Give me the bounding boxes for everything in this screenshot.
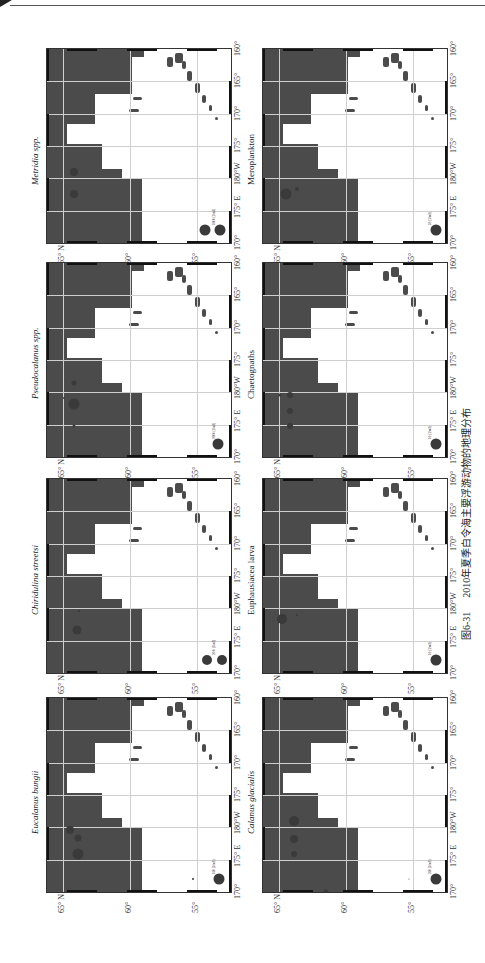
frame-tick [67,241,97,244]
frame-tick [67,455,97,458]
lat-tick-label: 65° N [57,675,66,694]
frame-tick [229,146,232,178]
map-frame: 5000 (1/m3) [46,48,232,244]
lon-tick-label: 175° E [449,626,458,648]
land-mass [283,308,311,338]
land-mass [283,94,311,124]
lon-tick-label: 160° [233,41,242,56]
island [209,319,212,325]
panel-title: Euphausiacea larva [246,545,256,615]
frame-tick [343,455,373,458]
frame-tick [229,860,232,892]
land-mass [102,599,122,613]
lon-gridline [47,544,231,545]
lon-tick-label: 170° [449,105,458,120]
lon-gridline [47,763,231,764]
lon-tick-label: 180°W [449,593,458,616]
frame-tick [403,671,433,674]
panel-title: Chiridulina streetsi [30,545,40,615]
frame-tick [229,425,232,457]
abundance-dot [291,851,297,857]
frame-tick [262,608,265,640]
lon-gridline [263,730,447,731]
abundance-dot [72,626,81,635]
lon-gridline [263,146,447,147]
land-mass [102,818,122,832]
abundance-dot [202,655,212,665]
frame-tick [403,241,433,244]
map-frame: 20.0 (1/m3) [46,478,232,674]
lon-tick-label: 175° E [449,845,458,867]
panel-title: Meroplankton [246,134,256,185]
island [187,285,192,295]
frame-tick [127,697,157,700]
island [133,311,142,314]
lon-tick-label: 165° [449,503,458,518]
island [391,483,399,493]
abundance-dot [287,423,293,429]
frame-tick [127,48,157,51]
island [418,525,422,533]
lon-tick-label: 165° [233,722,242,737]
legend-scale-label: 10 (1/m3) [428,426,432,439]
island [425,754,428,760]
island [425,535,428,541]
island [418,309,422,317]
abundance-dot [63,397,65,399]
lon-gridline [263,763,447,764]
lon-gridline [263,114,447,115]
abundance-dot [78,610,80,612]
island [187,71,192,81]
frame-tick [127,455,157,458]
island [215,547,218,550]
island [209,754,212,760]
frame-tick [67,478,97,481]
lat-tick-label: 65° N [57,459,66,478]
lon-tick-label: 160° [449,690,458,705]
land-mass [67,263,132,308]
lon-tick-label: 180°W [233,593,242,616]
lon-gridline [47,795,231,796]
abundance-dot [66,826,74,834]
lon-tick-label: 170° [449,449,458,464]
lon-gridline [47,392,231,393]
lon-gridline [47,860,231,861]
lon-tick-label: 170° [233,235,242,250]
lon-tick-label: 180°W [233,812,242,835]
land-mass [283,524,311,554]
island [349,746,358,749]
lon-tick-label: 175° [233,787,242,802]
frame-tick [229,576,232,608]
land-mass [67,308,95,338]
frame-tick [403,262,433,265]
land-mass [283,574,318,609]
lon-gridline [263,211,447,212]
frame-tick [262,763,265,795]
lon-gridline [263,608,447,609]
island [187,720,192,730]
map-frame: 10 (1/m3) [262,262,448,458]
frame-tick [262,392,265,424]
lon-gridline [47,211,231,212]
frame-tick [46,328,49,360]
frame-tick [445,360,448,392]
lat-tick-label: 65° N [273,675,282,694]
island [215,331,218,334]
frame-tick [67,262,97,265]
island [425,319,428,325]
abundance-dot [70,168,78,176]
frame-tick [262,479,265,511]
lat-tick-label: 65° N [273,459,282,478]
frame-tick [46,763,49,795]
frame-tick [229,511,232,543]
frame-tick [67,697,97,700]
land-mass [67,793,102,828]
island [403,71,408,81]
lon-tick-label: 175° [449,568,458,583]
lon-tick-label: 170° [233,105,242,120]
frame-tick [46,827,49,859]
lon-gridline [263,576,447,577]
island [383,57,389,67]
island [391,267,399,277]
lon-tick-label: 170° [233,754,242,769]
